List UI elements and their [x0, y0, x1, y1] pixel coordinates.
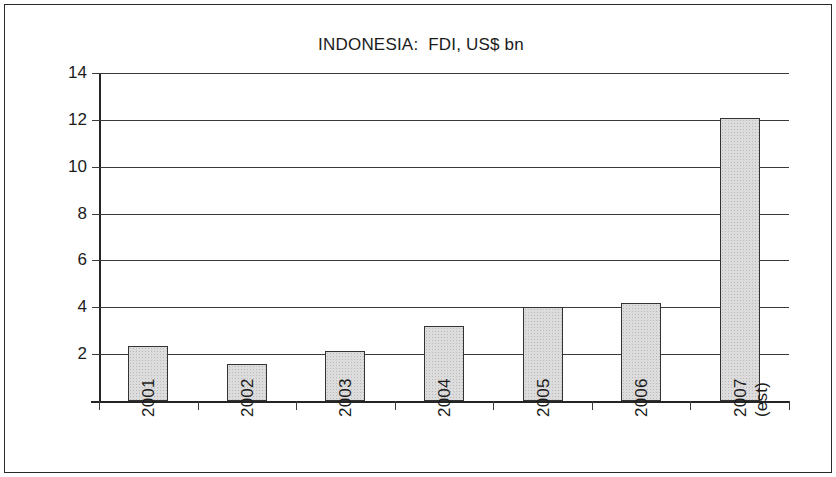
chart-title: INDONESIA: FDI, US$ bn	[7, 35, 835, 55]
y-tick-mark	[92, 120, 99, 121]
x-tick-label-text: 2004	[435, 378, 455, 417]
figure-frame: INDONESIA: FDI, US$ bn 1412108642 200120…	[4, 4, 832, 473]
bar-2007	[720, 118, 760, 401]
x-tick-label-text: 2003	[336, 378, 356, 417]
y-tick-mark	[92, 73, 99, 74]
x-tick-sublabel-text: (est)	[752, 382, 772, 417]
y-tick-label: 12	[68, 110, 87, 130]
gridline	[99, 73, 789, 74]
y-axis-line	[99, 73, 101, 401]
x-tick-label-text: 2005	[534, 378, 554, 417]
figure-frame-inner: INDONESIA: FDI, US$ bn 1412108642 200120…	[6, 6, 830, 471]
x-tick-mark	[592, 401, 593, 410]
y-tick-mark	[92, 214, 99, 215]
y-tick-label: 10	[68, 157, 87, 177]
x-tick-mark	[493, 401, 494, 410]
y-tick-mark	[92, 167, 99, 168]
y-tick-label: 6	[78, 250, 87, 270]
x-tick-mark	[395, 401, 396, 410]
x-tick-label-text: 2006	[632, 378, 652, 417]
y-tick-mark	[92, 307, 99, 308]
gridline	[99, 120, 789, 121]
y-tick-mark	[92, 354, 99, 355]
y-tick-label: 8	[78, 204, 87, 224]
x-tick-label-text: 2007	[731, 378, 751, 417]
x-tick-mark	[198, 401, 199, 410]
x-tick-mark	[690, 401, 691, 410]
gridline	[99, 260, 789, 261]
y-tick-label: 14	[68, 63, 87, 83]
gridline	[99, 214, 789, 215]
y-tick-label: 2	[78, 344, 87, 364]
x-tick-label-text: 2001	[139, 378, 159, 417]
plot-area: 1412108642 2001200220032004200520062007(…	[99, 73, 789, 401]
gridline	[99, 307, 789, 308]
gridline	[99, 167, 789, 168]
x-tick-mark	[296, 401, 297, 410]
x-tick-label-text: 2002	[238, 378, 258, 417]
x-tick-mark	[99, 401, 100, 410]
x-tick-mark	[789, 401, 790, 410]
y-tick-mark	[92, 260, 99, 261]
y-tick-label: 4	[78, 297, 87, 317]
